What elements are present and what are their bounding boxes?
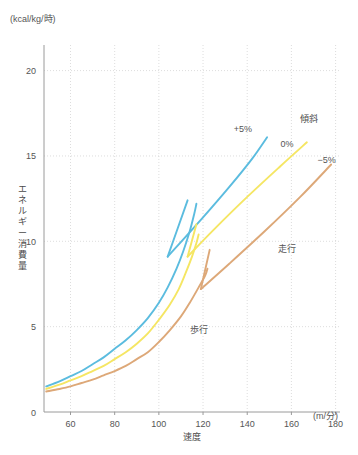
y-axis-title-char: ー bbox=[18, 228, 27, 238]
y-axis-title-char: ネ bbox=[18, 195, 27, 205]
annotation-label: 歩行 bbox=[190, 324, 208, 335]
y-axis-title-char: エ bbox=[18, 184, 27, 194]
y-tick-label: 20 bbox=[26, 66, 36, 76]
series-curve-run-5 bbox=[201, 164, 331, 289]
x-tick-label: 60 bbox=[65, 419, 75, 429]
y-axis-title-char: 量 bbox=[18, 261, 27, 271]
annotation-label: 傾斜 bbox=[300, 113, 318, 124]
data-series-layer bbox=[46, 137, 331, 391]
y-axis-title-char: ギ bbox=[18, 217, 27, 227]
annotation-label: +5% bbox=[234, 124, 252, 134]
x-tick-label: 140 bbox=[240, 419, 255, 429]
series-curve-walk-0 bbox=[46, 234, 198, 388]
y-tick-label: 0 bbox=[31, 408, 36, 418]
y-tick-label: 15 bbox=[26, 151, 36, 161]
y-tick-label: 10 bbox=[26, 237, 36, 247]
x-tick-label: 160 bbox=[284, 419, 299, 429]
y-axis-title: エネルギー消費量 bbox=[18, 184, 27, 271]
x-axis-ticks: 6080100120140160180 bbox=[65, 412, 343, 429]
y-axis-title-char: 費 bbox=[18, 249, 27, 260]
y-axis-ticks: 05101520 bbox=[26, 66, 36, 417]
energy-expenditure-chart: 05101520 6080100120140160180 (kcal/kg/時)… bbox=[0, 0, 358, 455]
chart-canvas: 05101520 6080100120140160180 (kcal/kg/時)… bbox=[0, 0, 358, 455]
y-axis-title-char: ル bbox=[18, 206, 27, 216]
y-axis-unit-label: (kcal/kg/時) bbox=[10, 14, 56, 24]
x-axis-title: 速度 bbox=[183, 431, 201, 442]
series-curve-walk-5 bbox=[46, 204, 196, 387]
x-tick-label: 120 bbox=[196, 419, 211, 429]
annotation-label: 0% bbox=[280, 139, 293, 149]
annotation-label: −5% bbox=[318, 155, 336, 165]
y-tick-label: 5 bbox=[31, 322, 36, 332]
series-curve-run-5 bbox=[168, 137, 267, 256]
x-tick-label: 100 bbox=[151, 419, 166, 429]
chart-annotations: 歩行走行傾斜+5%0%−5% bbox=[190, 113, 336, 336]
annotation-label: 走行 bbox=[278, 243, 296, 254]
x-tick-label: 80 bbox=[110, 419, 120, 429]
y-axis-title-char: 消 bbox=[18, 238, 27, 249]
x-axis-unit-label: (m/分) bbox=[313, 411, 338, 421]
